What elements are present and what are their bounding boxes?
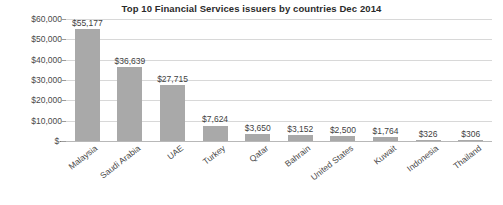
x-axis-category-labels: MalaysiaSaudi ArabiaUAETurkeyQatarBahrai… bbox=[0, 143, 503, 205]
y-axis-tick bbox=[61, 141, 66, 142]
x-axis-category-label: Thailand bbox=[451, 143, 483, 171]
y-axis-tick bbox=[61, 121, 66, 122]
y-axis-tick-label: $30,000 bbox=[2, 75, 62, 85]
y-axis-tick-label: $40,000 bbox=[2, 55, 62, 65]
bar bbox=[373, 137, 398, 141]
gridline bbox=[66, 39, 492, 40]
bar-value-label: $7,624 bbox=[202, 114, 228, 124]
gridline bbox=[66, 19, 492, 20]
bar-value-label: $2,500 bbox=[330, 125, 356, 135]
chart-title: Top 10 Financial Services issuers by cou… bbox=[0, 3, 503, 14]
bar-value-label: $3,152 bbox=[287, 124, 313, 134]
bar-value-label: $27,715 bbox=[157, 74, 188, 84]
bar bbox=[458, 140, 483, 141]
bar bbox=[288, 135, 313, 141]
bar-chart: Top 10 Financial Services issuers by cou… bbox=[0, 0, 503, 205]
y-axis-tick-label: $10,000 bbox=[2, 116, 62, 126]
y-axis-tick bbox=[61, 100, 66, 101]
bar bbox=[203, 126, 228, 142]
plot-area: $55,177$36,639$27,715$7,624$3,650$3,152$… bbox=[66, 19, 492, 141]
y-axis-labels: $-$10,000$20,000$30,000$40,000$50,000$60… bbox=[0, 19, 62, 141]
x-axis-category-label: Bahrain bbox=[283, 143, 312, 169]
x-axis-category-label: UAE bbox=[165, 143, 185, 162]
x-axis-category-label: Kuwait bbox=[371, 143, 397, 167]
bar-value-label: $3,650 bbox=[245, 123, 271, 133]
y-axis-tick bbox=[61, 19, 66, 20]
bar bbox=[117, 67, 142, 141]
axis-baseline bbox=[66, 141, 492, 142]
bar bbox=[245, 134, 270, 141]
y-axis-tick-label: $20,000 bbox=[2, 95, 62, 105]
x-axis-category-label: Qatar bbox=[247, 143, 270, 164]
y-axis-tick bbox=[61, 80, 66, 81]
y-axis-tick-label: $50,000 bbox=[2, 34, 62, 44]
y-axis-tick-label: $60,000 bbox=[2, 14, 62, 24]
x-axis-category-label: Indonesia bbox=[405, 143, 440, 174]
bar-value-label: $36,639 bbox=[115, 56, 146, 66]
bar-value-label: $1,764 bbox=[373, 126, 399, 136]
bar-value-label: $326 bbox=[419, 129, 438, 139]
x-axis-category-label: Saudi Arabia bbox=[98, 143, 142, 181]
bar-value-label: $55,177 bbox=[72, 18, 103, 28]
bar bbox=[75, 29, 100, 141]
x-axis-category-label: Malaysia bbox=[67, 143, 100, 172]
x-axis-category-label: Turkey bbox=[201, 143, 227, 167]
y-axis-tick bbox=[61, 60, 66, 61]
bar-value-label: $306 bbox=[461, 129, 480, 139]
y-axis-tick bbox=[61, 39, 66, 40]
bar bbox=[330, 136, 355, 141]
bar bbox=[160, 85, 185, 141]
x-axis-category-label: United States bbox=[309, 143, 355, 182]
bar bbox=[416, 140, 441, 141]
